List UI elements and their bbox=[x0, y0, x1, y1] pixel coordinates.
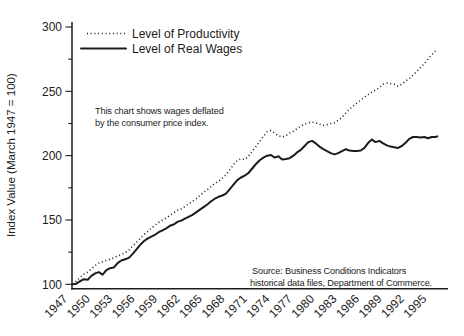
x-tick-label: 1974 bbox=[243, 291, 272, 320]
x-tick-label: 1956 bbox=[109, 291, 138, 320]
annotation-line-2: by the consumer price index. bbox=[95, 118, 208, 128]
x-tick-label: 1953 bbox=[86, 291, 115, 320]
x-tick-label: 1992 bbox=[378, 291, 407, 320]
x-tick-label: 1947 bbox=[42, 291, 71, 320]
source-note: Source: Business Conditions Indicators h… bbox=[250, 266, 432, 289]
y-axis-title: Index Value (March 1947 = 100) bbox=[5, 73, 17, 237]
x-tick-label: 1971 bbox=[221, 291, 250, 320]
source-line-2: historical data files, Department of Com… bbox=[250, 278, 432, 288]
productivity-wages-chart: 100150200250300 194719501953195619591962… bbox=[0, 0, 464, 336]
source-line-1: Source: Business Conditions Indicators bbox=[252, 266, 407, 276]
legend-productivity-label: Level of Productivity bbox=[132, 27, 239, 41]
x-tick-label: 1986 bbox=[333, 291, 362, 320]
y-tick-label: 300 bbox=[42, 20, 62, 34]
legend-wages-label: Level of Real Wages bbox=[132, 42, 242, 56]
x-tick-label: 1965 bbox=[176, 291, 205, 320]
data-series bbox=[73, 49, 438, 284]
axes bbox=[71, 22, 448, 290]
annotation-line-1: This chart shows wages deflated bbox=[95, 106, 224, 116]
y-tick-label: 100 bbox=[42, 278, 62, 292]
y-tick-label: 250 bbox=[42, 85, 62, 99]
x-tick-label: 1959 bbox=[131, 291, 160, 320]
x-tick-label: 1977 bbox=[266, 291, 295, 320]
x-tick-label: 1968 bbox=[199, 291, 228, 320]
y-tick-label: 150 bbox=[42, 213, 62, 227]
chart-container: 100150200250300 194719501953195619591962… bbox=[0, 0, 464, 336]
x-axis-ticks: 1947195019531956195919621965196819711974… bbox=[42, 291, 430, 320]
x-tick-label: 1980 bbox=[288, 291, 317, 320]
x-tick-label: 1995 bbox=[401, 291, 430, 320]
y-tick-label: 200 bbox=[42, 149, 62, 163]
real-wages-series-line bbox=[73, 136, 438, 284]
annotation-note: This chart shows wages deflated by the c… bbox=[95, 106, 224, 129]
x-tick-label: 1962 bbox=[154, 291, 183, 320]
x-tick-label: 1983 bbox=[311, 291, 340, 320]
x-tick-label: 1950 bbox=[64, 291, 93, 320]
legend: Level of Productivity Level of Real Wage… bbox=[81, 27, 242, 56]
x-tick-label: 1989 bbox=[356, 291, 385, 320]
y-axis-ticks: 100150200250300 bbox=[42, 20, 72, 291]
